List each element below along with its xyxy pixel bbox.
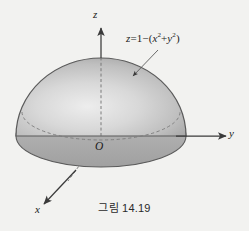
surface-equation-label: z=1−(x2+y2) bbox=[126, 32, 180, 44]
axis-label-z: z bbox=[93, 9, 97, 20]
figure-caption: 그림 14.19 bbox=[0, 199, 249, 215]
figure-drawing bbox=[0, 0, 249, 231]
figure-container: z=1−(x2+y2) z y x O 그림 14.19 bbox=[0, 0, 249, 231]
origin-label: O bbox=[95, 141, 103, 153]
axis-label-y: y bbox=[229, 128, 234, 139]
equation-close-paren: ) bbox=[176, 32, 180, 44]
